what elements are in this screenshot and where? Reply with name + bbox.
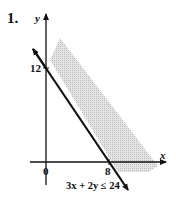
inequality-label: 3x + 2y ≤ 24 xyxy=(66,180,120,191)
shaded-region xyxy=(50,38,158,172)
y-intercept-label: 12 xyxy=(30,62,42,74)
y-axis-label: y xyxy=(33,12,40,24)
x-intercept-label: 8 xyxy=(105,165,111,177)
inequality-graph: y x 12 0 8 3x + 2y ≤ 24 xyxy=(0,0,176,211)
x-axis-label: x xyxy=(159,149,166,161)
origin-label: 0 xyxy=(43,165,49,177)
